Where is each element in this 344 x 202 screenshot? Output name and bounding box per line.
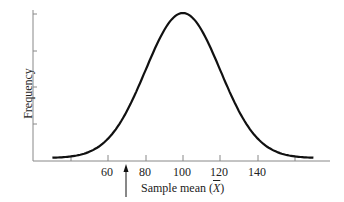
- y-axis-label: Frequency: [21, 64, 36, 124]
- x-tick-label-80: 80: [139, 165, 151, 180]
- x-tick-label-60: 60: [101, 165, 113, 180]
- normal-curve: [52, 13, 313, 158]
- x-ticks: [71, 155, 295, 161]
- x-tick-label-100: 100: [173, 165, 191, 180]
- x-tick-label-140: 140: [248, 165, 266, 180]
- arrow-icon: [124, 164, 129, 197]
- chart: [0, 0, 344, 202]
- x-axis-label: Sample mean (X): [141, 181, 224, 196]
- x-tick-label-120: 120: [210, 165, 228, 180]
